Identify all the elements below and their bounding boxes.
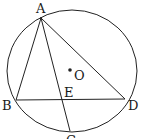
label-d: D [128,98,138,113]
point-a [40,17,42,19]
segment-ad [41,18,125,99]
segment-ab [16,18,41,100]
circle-o [7,10,137,132]
label-o: O [74,68,85,83]
label-b: B [2,98,12,113]
center-point-o [68,68,72,72]
label-a: A [35,1,46,16]
geometry-diagram: A B D E O C [0,0,142,139]
label-e: E [64,85,74,100]
label-c: C [66,133,76,139]
segment-ac [41,18,70,131]
